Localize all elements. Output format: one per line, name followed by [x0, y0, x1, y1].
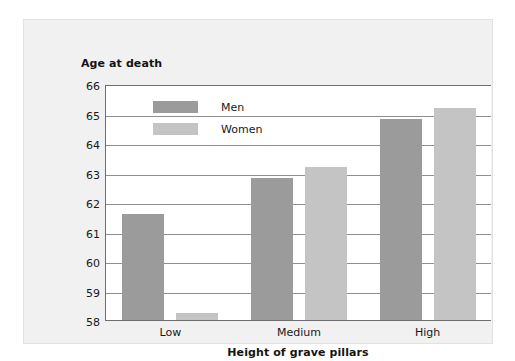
legend-swatch-women [153, 123, 198, 135]
x-axis-title: Height of grave pillars [105, 346, 491, 359]
legend-label-men: Men [221, 101, 244, 114]
y-axis-tick-label: 59 [86, 286, 100, 299]
chart-figure: Age at death 666564636261605958 LowMediu… [0, 0, 515, 361]
legend-item-men: Men [153, 96, 262, 118]
y-axis-tick-label: 63 [86, 168, 100, 181]
bar-women-medium [305, 167, 347, 320]
legend-swatch-men [153, 101, 198, 113]
legend-label-women: Women [221, 123, 262, 136]
y-axis-tick-label: 62 [86, 198, 100, 211]
y-axis-tick-label: 61 [86, 227, 100, 240]
x-axis-tick-label: High [415, 326, 440, 339]
x-axis-tick-label: Low [159, 326, 181, 339]
bar-women-high [434, 108, 476, 320]
y-axis-tick-label: 64 [86, 139, 100, 152]
chart-panel: Age at death 666564636261605958 LowMediu… [23, 19, 493, 344]
bar-men-medium [251, 178, 293, 320]
bar-men-low [122, 214, 164, 320]
x-axis-tick-label: Medium [277, 326, 321, 339]
legend-item-women: Women [153, 118, 262, 140]
y-axis-tick-label: 66 [86, 80, 100, 93]
plot-area: 666564636261605958 LowMediumHigh MenWome… [105, 85, 491, 321]
chart-legend: MenWomen [153, 96, 262, 140]
y-axis-tick-label: 60 [86, 257, 100, 270]
y-axis-tick-label: 58 [86, 316, 100, 329]
bar-women-low [176, 313, 218, 320]
bar-men-high [380, 119, 422, 320]
y-axis-tick-label: 65 [86, 109, 100, 122]
y-axis-title: Age at death [81, 57, 162, 70]
